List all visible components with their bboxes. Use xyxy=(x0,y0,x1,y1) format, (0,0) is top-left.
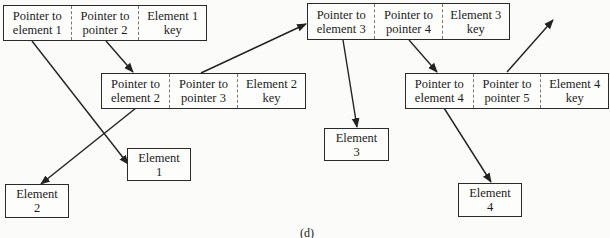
list-node-2: Pointer toelement 2 Pointer topointer 3 … xyxy=(101,73,306,109)
pointer-to-pointer-cell: Pointer topointer 3 xyxy=(169,74,237,108)
pointer-to-element-cell: Pointer toelement 3 xyxy=(308,4,374,39)
list-node-3: Pointer toelement 3 Pointer topointer 4 … xyxy=(307,3,510,40)
list-node-4: Pointer toelement 4 Pointer topointer 5 … xyxy=(405,73,609,109)
pointer-to-element-cell: Pointer toelement 4 xyxy=(406,74,473,108)
element-box-3: Element3 xyxy=(324,128,389,161)
element-key-cell: Element 4key xyxy=(540,74,608,108)
element-box-4: Element4 xyxy=(458,183,522,217)
element-box-2: Element2 xyxy=(5,184,69,218)
list-node-1: Pointer toelement 1 Pointer topointer 2 … xyxy=(3,5,207,41)
arrow-node4-to-element4 xyxy=(444,108,491,182)
figure-caption: (d) xyxy=(300,226,314,238)
element-key-cell: Element 2key xyxy=(237,74,305,108)
arrow-node2-to-element2 xyxy=(41,108,136,184)
arrow-node2-to-node3 xyxy=(201,24,306,73)
pointer-to-pointer-cell: Pointer topointer 5 xyxy=(473,74,541,108)
element-box-1: Element1 xyxy=(127,148,191,181)
arrow-node3-to-node4 xyxy=(409,40,437,72)
element-key-cell: Element 1key xyxy=(138,6,206,40)
element-key-cell: Element 3key xyxy=(442,4,509,39)
arrow-node1-to-node2 xyxy=(106,41,133,72)
arrow-node3-to-element3 xyxy=(343,40,357,127)
arrow-node4-to-next xyxy=(507,20,553,72)
pointer-to-pointer-cell: Pointer topointer 4 xyxy=(374,4,441,39)
pointer-to-element-cell: Pointer toelement 2 xyxy=(102,74,169,108)
pointer-to-pointer-cell: Pointer topointer 2 xyxy=(71,6,139,40)
pointer-to-element-cell: Pointer toelement 1 xyxy=(4,6,71,40)
